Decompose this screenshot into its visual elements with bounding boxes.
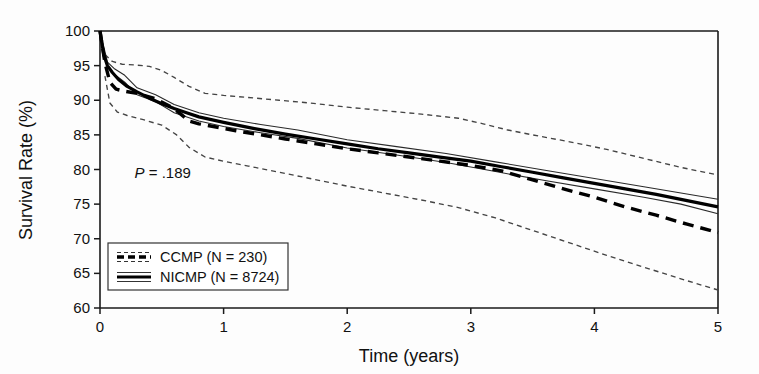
y-tick-label-75: 75 [73, 195, 90, 212]
y-tick-label-65: 65 [73, 264, 90, 281]
x-tick-label-3: 3 [467, 318, 475, 335]
x-tick-label-2: 2 [343, 318, 351, 335]
y-tick-label-80: 80 [73, 161, 90, 178]
x-axis-title: Time (years) [359, 346, 459, 366]
y-tick-label-60: 60 [73, 299, 90, 316]
x-tick-label-4: 4 [590, 318, 598, 335]
x-tick-label-1: 1 [219, 318, 227, 335]
x-tick-label-5: 5 [714, 318, 722, 335]
y-tick-label-95: 95 [73, 57, 90, 74]
y-tick-label-100: 100 [65, 22, 90, 39]
y-axis-title: Survival Rate (%) [16, 100, 36, 240]
survival-curve-figure: 1009590858075706560 012345 P = .189 Surv… [0, 0, 759, 374]
y-tick-label-90: 90 [73, 91, 90, 108]
x-tick-label-0: 0 [96, 318, 104, 335]
p-value-annotation: P = .189 [135, 164, 191, 181]
kaplan-meier-chart: 1009590858075706560 012345 P = .189 Surv… [0, 0, 759, 374]
legend-label-nicmp: NICMP (N = 8724) [160, 269, 279, 285]
legend-label-ccmp: CCMP (N = 230) [160, 249, 267, 265]
y-tick-label-70: 70 [73, 230, 90, 247]
y-tick-label-85: 85 [73, 126, 90, 143]
chart-legend[interactable]: CCMP (N = 230) NICMP (N = 8724) [108, 243, 288, 290]
